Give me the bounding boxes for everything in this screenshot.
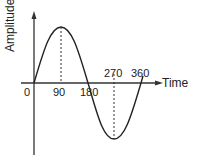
- tick-label-0: 0: [24, 87, 30, 98]
- tick-label-360: 360: [131, 68, 149, 79]
- tick-label-90: 90: [53, 87, 65, 98]
- y-axis-label: Amplitude: [4, 0, 16, 52]
- y-axis-arrow-icon: [32, 11, 37, 19]
- tick-label-180: 180: [80, 87, 98, 98]
- x-axis-label: Time: [162, 77, 188, 89]
- tick-label-270: 270: [104, 68, 122, 79]
